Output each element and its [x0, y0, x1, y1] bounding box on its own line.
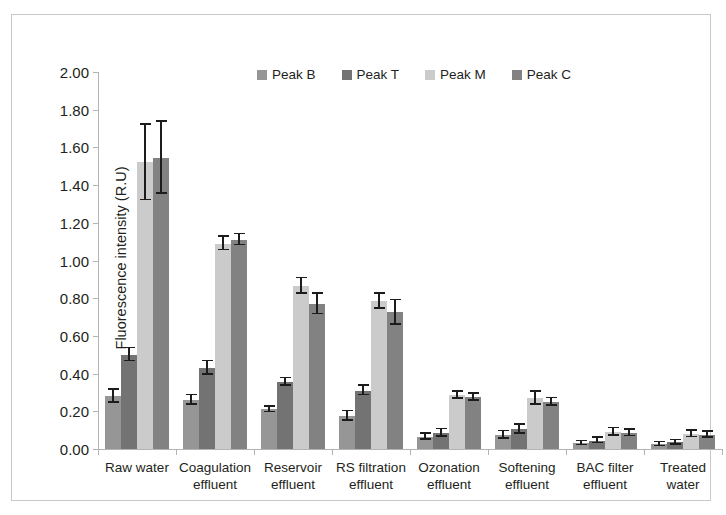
error-bar-cap [218, 249, 229, 251]
error-bar-cap [702, 430, 713, 432]
x-axis-tick [254, 449, 255, 455]
bar-group [332, 72, 410, 449]
error-bar-cap [514, 423, 525, 425]
error-bar-cap [624, 435, 635, 437]
error-bar-cap [280, 377, 291, 379]
bar-slot [417, 72, 433, 449]
error-bar-cap [452, 397, 463, 399]
bar-group [488, 72, 566, 449]
bar-slot [199, 72, 215, 449]
x-axis-tick [644, 449, 645, 455]
bar[interactable] [339, 416, 355, 449]
chart-frame: Fluorescence intensity (R.U) 0.000.200.4… [11, 14, 711, 501]
bar[interactable] [215, 244, 231, 449]
error-bar-cap [108, 401, 119, 403]
x-axis-tick [98, 449, 99, 455]
error-bar-cap [608, 434, 619, 436]
bar-slot [449, 72, 465, 449]
bar[interactable] [137, 162, 153, 449]
bar-slot [465, 72, 481, 449]
bar-slot [215, 72, 231, 449]
bar[interactable] [543, 402, 559, 449]
bar[interactable] [449, 395, 465, 449]
x-axis-category-label: BAC filtereffluent [566, 459, 644, 493]
bar[interactable] [527, 398, 543, 449]
y-axis-tick-label: 0.20 [60, 403, 89, 420]
bar-slot [433, 72, 449, 449]
bar-slot [683, 72, 699, 449]
bar[interactable] [121, 355, 137, 449]
x-axis-category-line: Softening [488, 459, 566, 476]
error-bar-cap [592, 436, 603, 438]
error-bar-cap [576, 440, 587, 442]
bar[interactable] [465, 397, 481, 449]
error-bar-cap [436, 435, 447, 437]
y-axis-tick-label: 2.00 [60, 64, 89, 81]
y-axis-tick-label: 1.80 [60, 101, 89, 118]
y-axis-tick-label: 1.00 [60, 252, 89, 269]
error-bar-cap [186, 394, 197, 396]
bar-group [254, 72, 332, 449]
bar-slot [183, 72, 199, 449]
x-axis-category-label: Softeningeffluent [488, 459, 566, 493]
bar[interactable] [105, 396, 121, 449]
x-axis-category-line: Ozonation [410, 459, 488, 476]
x-axis-category-label: Ozonationeffluent [410, 459, 488, 493]
error-bar-cap [374, 307, 385, 309]
bar-group [566, 72, 644, 449]
error-bar-cap [108, 388, 119, 390]
bar[interactable] [261, 409, 277, 449]
error-bar-cap [530, 403, 541, 405]
error-bar-cap [670, 439, 681, 441]
error-bar-cap [358, 394, 369, 396]
bar[interactable] [183, 400, 199, 449]
error-bar-cap [202, 373, 213, 375]
error-bar-cap [264, 405, 275, 407]
bar[interactable] [309, 304, 325, 449]
x-axis-tick [410, 449, 411, 455]
error-bar-cap [468, 392, 479, 394]
x-axis-tick [488, 449, 489, 455]
error-bar-cap [654, 445, 665, 447]
error-bar-cap [592, 442, 603, 444]
bar-slot [495, 72, 511, 449]
error-bar-cap [156, 192, 167, 194]
error-bar-cap [156, 120, 167, 122]
x-axis-category-line: Treated [644, 459, 722, 476]
bar[interactable] [355, 391, 371, 449]
error-bar-cap [296, 292, 307, 294]
bar-slot [121, 72, 137, 449]
x-axis-category-line: effluent [332, 476, 410, 493]
error-bar-cap [140, 199, 151, 201]
bar-slot [651, 72, 667, 449]
bar-slot [667, 72, 683, 449]
x-axis-category-line: effluent [176, 476, 254, 493]
bar-slot [605, 72, 621, 449]
bar[interactable] [153, 158, 169, 449]
x-axis-tick [566, 449, 567, 455]
bar[interactable] [293, 286, 309, 449]
bar[interactable] [231, 240, 247, 449]
x-axis-tick [722, 449, 723, 455]
error-bar-cap [342, 419, 353, 421]
bar-slot [387, 72, 403, 449]
error-bar [394, 300, 396, 325]
error-bar-cap [390, 299, 401, 301]
bar-slot [137, 72, 153, 449]
error-bar-cap [280, 384, 291, 386]
bar[interactable] [387, 312, 403, 449]
bar[interactable] [199, 368, 215, 449]
bar-slot [699, 72, 715, 449]
x-axis-category-line: effluent [410, 476, 488, 493]
bar[interactable] [277, 382, 293, 449]
bar[interactable] [371, 301, 387, 449]
error-bar-cap [670, 443, 681, 445]
error-bar-cap [702, 436, 713, 438]
y-axis-tick-label: 1.20 [60, 214, 89, 231]
error-bar-cap [140, 123, 151, 125]
bar-slot [371, 72, 387, 449]
error-bar-cap [358, 384, 369, 386]
error-bar-cap [576, 444, 587, 446]
error-bar-cap [234, 244, 245, 246]
error-bar [160, 122, 162, 194]
